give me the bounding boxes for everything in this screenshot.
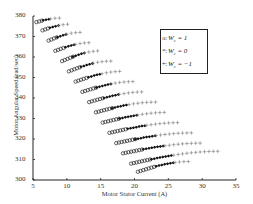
filled-marker-icon: *: <box>161 48 168 54</box>
plus-marker-icon: +: <box>161 61 168 67</box>
x-tick-label: 15 <box>96 183 106 190</box>
legend: o:Wc = 1 *:Wc = 0 +:Wc = −1 <box>160 29 208 74</box>
circle-marker-icon: o: <box>161 35 168 41</box>
legend-item-wc-1: o:Wc = 1 <box>161 34 187 43</box>
x-tick-label: 35 <box>231 183 241 190</box>
scatter-chart <box>0 0 253 204</box>
x-tick-label: 20 <box>130 183 140 190</box>
x-tick-label: 25 <box>163 183 173 190</box>
x-axis-label: Motor Stator Current (A) <box>33 190 236 197</box>
y-tick-label: 380 <box>15 12 26 19</box>
y-tick-label: 300 <box>15 176 26 183</box>
x-tick-label: 10 <box>62 183 72 190</box>
y-tick-label: 370 <box>15 33 26 40</box>
x-tick-label: 5 <box>28 183 38 190</box>
y-axis-label: Motor Angular Speed (rad/sec) <box>12 41 19 151</box>
legend-item-wc-minus-1: +:Wc = −1 <box>161 60 192 69</box>
x-tick-label: 30 <box>197 183 207 190</box>
legend-item-wc-0: *:Wc = 0 <box>161 47 187 56</box>
y-tick-label: 310 <box>15 156 26 163</box>
